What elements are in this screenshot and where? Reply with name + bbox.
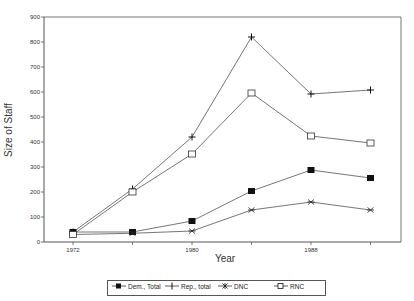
asterisk-marker-icon [218, 282, 232, 290]
x-axis: 197219801988 [66, 242, 370, 253]
legend-item-rnc: RNC [274, 282, 304, 290]
plot-frame [44, 17, 401, 242]
chart-legend: Dem., Total Rep., total DNC RNC [107, 280, 326, 296]
series-group [70, 34, 375, 238]
svg-text:900: 900 [30, 14, 41, 20]
svg-text:100: 100 [30, 214, 41, 220]
legend-label: Dem., Total [128, 283, 161, 290]
plus-marker-icon [165, 282, 179, 290]
svg-text:0: 0 [37, 239, 41, 245]
svg-text:1988: 1988 [304, 247, 318, 253]
svg-text:600: 600 [30, 89, 41, 95]
open-square-marker-icon [274, 282, 288, 290]
svg-text:400: 400 [30, 139, 41, 145]
legend-label: DNC [234, 283, 248, 290]
svg-text:200: 200 [30, 189, 41, 195]
y-axis-title: Size of Staff [3, 103, 14, 157]
svg-text:1972: 1972 [66, 247, 80, 253]
x-axis-title: Year [215, 253, 236, 264]
legend-label: RNC [290, 283, 304, 290]
svg-text:700: 700 [30, 64, 41, 70]
line-chart: 0100200300400500600700800900 19721980198… [0, 0, 414, 301]
svg-text:500: 500 [30, 114, 41, 120]
svg-text:800: 800 [30, 39, 41, 45]
legend-item-dem-total: Dem., Total [112, 282, 161, 290]
legend-item-rep-total: Rep., total [165, 282, 211, 290]
legend-item-dnc: DNC [218, 282, 248, 290]
svg-text:300: 300 [30, 164, 41, 170]
y-axis: 0100200300400500600700800900 [30, 14, 44, 245]
filled-square-marker-icon [112, 282, 126, 290]
legend-label: Rep., total [181, 283, 211, 290]
svg-text:1980: 1980 [185, 247, 199, 253]
